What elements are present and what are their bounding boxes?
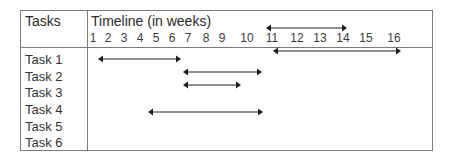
timeline-arrows [0,0,453,159]
arrow-task-2-icon [183,69,262,76]
arrow-task-4-icon [148,109,263,116]
arrow-header-week-11-14-icon [266,25,347,32]
arrow-task-1-icon [98,56,181,63]
arrow-task-3-icon [183,82,241,89]
arrow-week-11-16-icon [273,48,401,55]
